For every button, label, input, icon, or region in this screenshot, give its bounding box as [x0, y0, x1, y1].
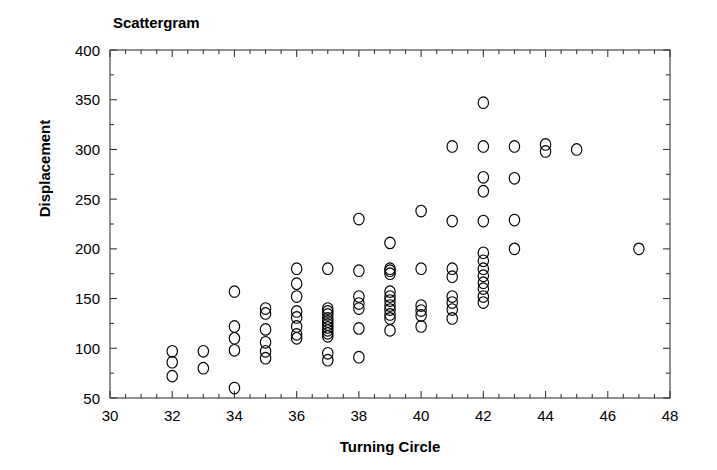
y-tick-label: 200 [75, 240, 100, 257]
data-point-group [167, 97, 644, 394]
data-point [291, 263, 301, 275]
data-point [229, 321, 239, 333]
y-axis-tick-labels: 50100150200250300350400 [75, 42, 100, 407]
data-point [447, 215, 457, 227]
x-tick-label: 42 [475, 407, 492, 424]
data-point [167, 356, 177, 368]
data-point [354, 298, 364, 310]
x-tick-label: 36 [288, 407, 305, 424]
data-point [323, 354, 333, 366]
data-point [478, 171, 488, 183]
data-point [447, 313, 457, 325]
data-point [540, 139, 550, 151]
data-point [354, 303, 364, 315]
data-point [229, 344, 239, 356]
x-tick-label: 40 [413, 407, 430, 424]
data-point [478, 270, 488, 282]
x-tick-label: 30 [102, 407, 119, 424]
y-tick-label: 150 [75, 290, 100, 307]
data-point [260, 352, 270, 364]
data-point [167, 345, 177, 357]
data-point [167, 370, 177, 382]
data-point [509, 172, 519, 184]
x-tick-label: 44 [537, 407, 554, 424]
data-point [229, 286, 239, 298]
x-tick-label: 46 [599, 407, 616, 424]
x-axis-tick-labels: 30323436384042444648 [102, 407, 679, 424]
data-point [478, 141, 488, 153]
data-point [229, 333, 239, 345]
data-point [478, 263, 488, 275]
data-point [416, 321, 426, 333]
data-point [385, 237, 395, 249]
data-point [416, 205, 426, 217]
plot-area: 30323436384042444648 5010015020025030035… [0, 0, 717, 470]
data-point [291, 278, 301, 290]
y-tick-label: 300 [75, 141, 100, 158]
data-point [385, 268, 395, 280]
data-point [385, 325, 395, 337]
data-point [198, 362, 208, 374]
data-point [323, 263, 333, 275]
x-tick-label: 48 [662, 407, 679, 424]
data-point [478, 185, 488, 197]
data-point [354, 265, 364, 277]
x-axis-title: Turning Circle [110, 438, 670, 455]
data-point [260, 303, 270, 315]
x-axis-ticks [110, 50, 670, 398]
chart-title: Scattergram [113, 14, 199, 31]
data-point [478, 215, 488, 227]
data-point [260, 345, 270, 357]
y-tick-label: 250 [75, 191, 100, 208]
data-point [447, 141, 457, 153]
x-tick-label: 38 [351, 407, 368, 424]
data-point [509, 141, 519, 153]
data-point [354, 351, 364, 363]
data-point [198, 345, 208, 357]
x-tick-label: 32 [164, 407, 181, 424]
data-point [571, 144, 581, 156]
data-point [354, 291, 364, 303]
x-tick-label: 34 [226, 407, 243, 424]
y-axis-ticks [110, 50, 670, 398]
plot-frame [110, 50, 670, 398]
data-point [354, 213, 364, 225]
data-point [260, 324, 270, 336]
y-tick-label: 100 [75, 340, 100, 357]
data-point [540, 146, 550, 158]
y-tick-label: 350 [75, 91, 100, 108]
data-point [416, 263, 426, 275]
data-point [291, 291, 301, 303]
y-axis-title: Displacement [36, 79, 53, 259]
data-point [260, 308, 270, 320]
data-point [323, 347, 333, 359]
data-point [509, 214, 519, 226]
data-point [416, 305, 426, 317]
data-point [509, 243, 519, 255]
data-point [478, 97, 488, 109]
scatter-chart-figure: Scattergram Displacement Turning Circle … [0, 0, 717, 470]
data-point [634, 243, 644, 255]
data-point [447, 271, 457, 283]
y-tick-label: 400 [75, 42, 100, 59]
data-point [354, 323, 364, 335]
y-tick-label: 50 [83, 390, 100, 407]
